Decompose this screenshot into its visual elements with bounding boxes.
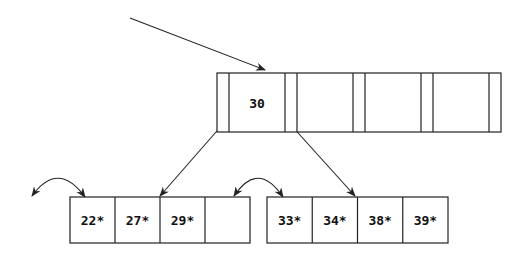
leaf-entry: 34* [323, 213, 347, 228]
left-leaf-prev-link [32, 178, 85, 197]
root-to-right-leaf-arrow [290, 124, 355, 196]
root-key: 30 [249, 96, 265, 111]
leaf-entry: 27* [126, 213, 150, 228]
leaf-entry: 29* [171, 213, 195, 228]
leaf-entry: 39* [414, 213, 438, 228]
right-leaf: 33*34*38*39* [267, 197, 448, 243]
b-plus-tree-diagram: 30 22*27*29*33*34*38*39* [0, 0, 530, 259]
entry-arrow [130, 18, 265, 70]
leaf-nodes: 22*27*29*33*34*38*39* [70, 197, 448, 243]
leaf-entry: 38* [368, 213, 392, 228]
root-to-left-leaf-arrow [160, 124, 223, 196]
leaf-entry: 33* [278, 213, 302, 228]
root-node: 30 [217, 73, 501, 132]
leaf-entry: 22* [81, 213, 105, 228]
leaf-sibling-link [234, 178, 283, 197]
left-leaf: 22*27*29* [70, 197, 250, 243]
